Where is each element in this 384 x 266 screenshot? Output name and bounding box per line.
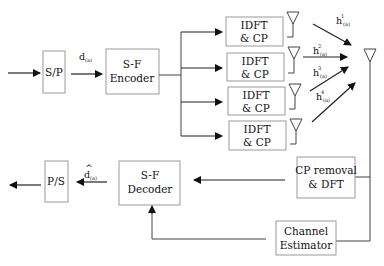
sp-label: S/P (45, 66, 63, 78)
channel-label-h3: h 3 (a) (313, 65, 327, 79)
receive-antenna-icon (364, 49, 376, 241)
svg-text:P/S: P/S (47, 175, 65, 187)
svg-text:3: 3 (318, 65, 321, 71)
channel-arrow-icon (312, 83, 355, 122)
sf-encoder-block: S-F Encoder (106, 49, 159, 94)
svg-text:1: 1 (341, 13, 344, 19)
svg-text:2: 2 (318, 43, 321, 49)
idft-block-4: IDFT & CP (229, 121, 286, 150)
svg-text:& DFT: & DFT (308, 178, 343, 190)
svg-text:& CP: & CP (240, 32, 268, 44)
sf-decoder-block: S-F Decoder (119, 161, 180, 205)
transmit-antenna-icon (290, 119, 302, 144)
channel-label-h1: h 1 (a) (336, 13, 350, 27)
channel-label-h2: h 2 (a) (313, 43, 327, 57)
svg-text:& CP: & CP (243, 136, 271, 148)
svg-text:& CP: & CP (241, 68, 269, 80)
cp-removal-dft-block: CP removal & DFT (295, 157, 357, 198)
svg-text:Estimator: Estimator (280, 239, 333, 251)
svg-text:4: 4 (321, 89, 324, 95)
svg-text:IDFT: IDFT (244, 123, 271, 135)
channel-arrow-icon (313, 24, 351, 45)
sp-block: S/P (43, 51, 65, 93)
channel-estimator-block: Channel Estimator (276, 221, 336, 255)
svg-text:IDFT: IDFT (243, 89, 270, 101)
svg-text:(a): (a) (323, 97, 330, 103)
svg-text:S-F: S-F (141, 169, 159, 181)
d-hat-subscript: (a) (90, 175, 97, 181)
d-subscript: (a) (85, 57, 92, 63)
svg-text:Channel: Channel (284, 225, 329, 237)
transmit-antenna-icon (287, 12, 299, 37)
svg-text:IDFT: IDFT (241, 19, 268, 31)
encoder-label-2: Encoder (110, 72, 156, 84)
svg-text:IDFT: IDFT (242, 55, 269, 67)
channel-label-h4: h 4 (a) (316, 89, 330, 103)
svg-text:(a): (a) (320, 73, 327, 79)
svg-text:(a): (a) (320, 51, 327, 57)
svg-text:CP removal: CP removal (295, 164, 357, 176)
idft-block-3: IDFT & CP (228, 87, 285, 115)
idft-block-1: IDFT & CP (226, 17, 283, 46)
idft-block-2: IDFT & CP (227, 53, 284, 81)
svg-text:& CP: & CP (242, 102, 270, 114)
svg-text:(a): (a) (343, 21, 350, 27)
transmit-antenna-icon (289, 84, 301, 109)
encoder-label-1: S-F (123, 58, 141, 70)
transmit-antenna-icon (288, 47, 300, 73)
ps-block: P/S (45, 161, 68, 202)
sfbc-ofdm-block-diagram: S/P d (a) S-F Encoder IDFT & CP IDFT & C… (0, 0, 384, 266)
svg-text:Decoder: Decoder (128, 183, 174, 195)
